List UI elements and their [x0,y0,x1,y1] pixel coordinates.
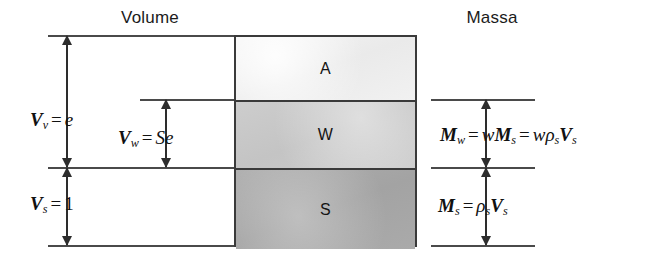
mass-water-density-symbol: ρ [545,124,554,145]
mass-water-expr1-symbol: M [494,124,511,145]
mass-solids-subscript: s [455,204,460,218]
volume-voids-dimension-arrow [66,36,67,167]
solid-phase-layer: S [236,170,415,249]
mass-solids-volume-subscript: s [503,204,508,218]
volume-solids-label: Vs=1 [30,194,74,216]
mass-water-equals-1: = [465,124,482,145]
mass-solids-label: Ms=ρsVs [438,196,508,218]
volume-voids-equals: = [48,109,65,130]
mass-water-coefficient-2: w [533,124,546,145]
mass-water-equals-2: = [516,124,533,145]
volume-water-subscript: w [131,136,139,150]
mass-water-label: Mw=wMs=wρsVs [440,125,577,147]
solid-phase-label: S [320,201,331,219]
volume-water-label: Vw=Se [118,128,173,150]
water-phase-layer: W [236,102,415,170]
water-phase-label: W [318,126,333,144]
volume-water-equals: = [139,127,156,148]
volume-column-header: Volume [121,8,179,28]
volume-voids-value: e [65,109,73,130]
mass-solids-symbol: M [438,195,455,216]
volume-voids-symbol: V [30,109,43,130]
mass-water-volume-symbol: V [559,124,572,145]
volume-solids-equals: = [47,193,64,214]
reference-line-water-top-left [140,99,234,101]
mass-solids-equals: = [460,195,477,216]
mass-column-header: Massa [466,8,517,28]
soil-phase-diagram: Volume Massa A W S [0,0,650,258]
air-phase-label: A [320,60,331,78]
mass-water-coefficient-1: w [482,124,495,145]
volume-solids-value: 1 [64,193,74,214]
volume-solids-symbol: V [30,193,43,214]
mass-solids-volume-symbol: V [490,195,503,216]
reference-line-voids-bottom-left [48,167,234,169]
mass-water-volume-subscript: s [572,133,577,147]
volume-voids-label: Vv=e [30,110,73,132]
mass-water-symbol: M [440,124,457,145]
volume-water-value: Se [156,127,174,148]
reference-line-top-left [48,35,234,37]
volume-water-symbol: V [118,127,131,148]
phase-box: A W S [234,35,417,247]
air-phase-layer: A [236,37,415,102]
reference-line-bottom-left [48,245,234,247]
mass-water-subscript: w [457,133,465,147]
